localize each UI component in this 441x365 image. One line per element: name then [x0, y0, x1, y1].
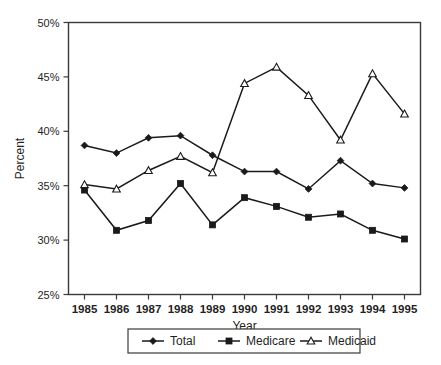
data-point-square	[402, 236, 408, 242]
data-point-square	[114, 227, 120, 233]
x-tick-label: 1987	[136, 303, 162, 315]
data-point-diamond	[209, 152, 216, 159]
x-tick-label: 1988	[168, 303, 194, 315]
x-tick-label: 1986	[104, 303, 130, 315]
line-chart: 25%30%35%40%45%50% 198519861987198819891…	[0, 0, 441, 365]
data-point-diamond	[81, 142, 88, 149]
series-total	[81, 132, 408, 192]
data-point-triangle	[177, 153, 185, 160]
chart-canvas: 25%30%35%40%45%50% 198519861987198819891…	[0, 0, 441, 365]
chart-legend: TotalMedicareMedicaid	[128, 329, 376, 353]
data-point-triangle	[241, 80, 249, 87]
data-point-square	[210, 222, 216, 228]
plot-frame	[69, 23, 421, 295]
x-tick-label: 1990	[232, 303, 258, 315]
data-point-triangle	[209, 169, 217, 176]
y-axis-title: Percent	[13, 137, 27, 179]
y-tick-label: 35%	[37, 180, 59, 192]
data-point-square	[370, 227, 376, 233]
data-point-square	[274, 203, 280, 209]
series-medicare	[82, 181, 408, 242]
legend-item-label: Medicaid	[328, 334, 376, 348]
y-tick-label: 25%	[37, 289, 59, 301]
y-tick-label: 40%	[37, 125, 59, 137]
series-line	[85, 136, 405, 189]
y-tick-label: 45%	[37, 71, 59, 83]
data-point-square	[146, 218, 152, 224]
x-tick-label: 1994	[360, 303, 386, 315]
series-line	[85, 184, 405, 239]
plot-area-border	[69, 23, 421, 295]
x-axis-ticks: 1985198619871988198919901991199219931994…	[72, 295, 418, 315]
data-point-triangle	[273, 63, 281, 70]
data-point-diamond	[177, 132, 184, 139]
y-axis-ticks: 25%30%35%40%45%50%	[37, 17, 68, 301]
legend-item-label: Medicare	[246, 334, 296, 348]
y-tick-label: 30%	[37, 234, 59, 246]
x-tick-label: 1992	[296, 303, 322, 315]
data-point-square	[242, 195, 248, 201]
data-point-square	[306, 214, 312, 220]
y-tick-label: 50%	[37, 17, 59, 29]
x-tick-label: 1993	[328, 303, 354, 315]
data-point-diamond	[241, 168, 248, 175]
data-point-square	[338, 211, 344, 217]
data-point-square	[178, 181, 184, 187]
data-series-group	[81, 63, 409, 242]
x-tick-label: 1991	[264, 303, 290, 315]
x-tick-label: 1989	[200, 303, 226, 315]
x-tick-label: 1995	[392, 303, 418, 315]
data-point-diamond	[401, 184, 408, 191]
data-point-diamond	[273, 168, 280, 175]
data-point-triangle	[369, 70, 377, 77]
legend-item-label: Total	[170, 334, 195, 348]
x-tick-label: 1985	[72, 303, 98, 315]
data-point-diamond	[145, 134, 152, 141]
data-point-square	[226, 338, 232, 344]
data-point-diamond	[113, 150, 120, 157]
